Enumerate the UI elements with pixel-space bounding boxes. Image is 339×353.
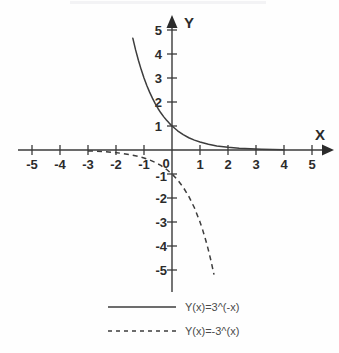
y-tick-label: 1 [155,119,162,134]
x-tick-label: 4 [280,157,288,172]
y-tick-label: 4 [155,47,163,62]
x-tick-label: -3 [82,157,94,172]
x-tick-label: -5 [26,157,38,172]
y-axis-label: Y [184,14,194,31]
y-tick-label: 5 [155,23,162,38]
y-tick-label: -4 [155,239,167,254]
x-tick-label: 5 [308,157,315,172]
legend-label-0: Y(x)=3^(-x) [185,301,239,313]
y-tick-label: -2 [155,191,167,206]
x-tick-label: -4 [54,157,66,172]
y-tick-label: -1 [155,169,167,184]
x-tick-label: 1 [196,157,203,172]
chart-svg: -5 -4 -3 -2 -1 0 1 2 3 4 5 1 2 3 4 5 -1 … [0,0,339,353]
chart-figure: -5 -4 -3 -2 -1 0 1 2 3 4 5 1 2 3 4 5 -1 … [0,0,339,353]
chart-background [0,0,339,353]
legend-label-1: Y(x)=-3^(x) [185,325,239,337]
x-tick-label: 2 [224,157,231,172]
y-tick-label: -3 [155,215,167,230]
scan-artifact [70,1,266,4]
x-axis-label: X [315,126,325,143]
x-tick-label: -2 [110,157,122,172]
x-tick-label: 3 [252,157,259,172]
y-tick-label: -5 [155,263,167,278]
x-tick-label: -1 [138,157,150,172]
y-tick-label: 3 [155,71,162,86]
